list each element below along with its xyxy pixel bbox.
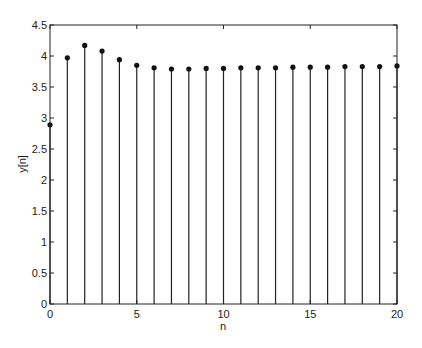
x-tick-label: 0	[47, 308, 53, 320]
stem	[221, 66, 226, 304]
stem-chart: 00.511.522.533.544.5 05101520 n y[n]	[0, 0, 422, 348]
stem-marker	[152, 65, 157, 70]
y-tick-label: 3.5	[32, 81, 47, 93]
x-tick-label: 20	[391, 308, 403, 320]
y-tick-label: 2	[41, 174, 47, 186]
stem-marker	[134, 63, 139, 68]
y-tick-label: 4.5	[32, 19, 47, 31]
x-tick-label: 5	[134, 308, 140, 320]
stem-marker	[360, 64, 365, 69]
y-tick-label: 0.5	[32, 267, 47, 279]
stem	[204, 66, 209, 304]
stem-marker	[377, 64, 382, 69]
stem	[273, 65, 278, 304]
stem	[308, 65, 313, 304]
stem	[325, 65, 330, 304]
stem-marker	[342, 64, 347, 69]
stem-marker	[169, 66, 174, 71]
stem	[186, 66, 191, 304]
y-tick-label: 1	[41, 236, 47, 248]
stem-marker	[238, 65, 243, 70]
stems	[47, 43, 399, 304]
y-axis-ticks: 00.511.522.533.544.5	[32, 19, 397, 310]
stem-marker	[221, 66, 226, 71]
x-axis-label: n	[220, 320, 226, 332]
stem	[134, 63, 139, 304]
stem	[99, 48, 104, 304]
x-tick-label: 15	[304, 308, 316, 320]
stem-marker	[204, 66, 209, 71]
stem	[117, 57, 122, 304]
stem	[256, 65, 261, 304]
y-tick-label: 2.5	[32, 143, 47, 155]
stem	[65, 55, 70, 304]
stem	[377, 64, 382, 304]
stem-marker	[186, 66, 191, 71]
stem-marker	[273, 65, 278, 70]
stem-marker	[325, 65, 330, 70]
stem-marker	[308, 65, 313, 70]
stem	[290, 65, 295, 304]
stem	[169, 66, 174, 304]
stem-marker	[65, 55, 70, 60]
stem-marker	[117, 57, 122, 62]
y-tick-label: 1.5	[32, 205, 47, 217]
stem	[152, 65, 157, 304]
y-axis-label: y[n]	[16, 155, 28, 173]
stem-marker	[256, 65, 261, 70]
stem	[238, 65, 243, 304]
stem	[360, 64, 365, 304]
stem-marker	[82, 43, 87, 48]
stem	[82, 43, 87, 304]
x-tick-label: 10	[217, 308, 229, 320]
y-tick-label: 3	[41, 112, 47, 124]
stem	[342, 64, 347, 304]
stem-marker	[99, 48, 104, 53]
y-tick-label: 4	[41, 50, 47, 62]
stem-marker	[290, 65, 295, 70]
